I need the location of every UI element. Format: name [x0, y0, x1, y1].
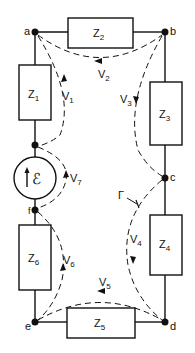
node-label-a: a: [24, 25, 31, 37]
svg-text:V4: V4: [130, 233, 142, 248]
node-b: [162, 29, 169, 36]
arrow-v7-icon: [63, 170, 69, 178]
arrow-v3-icon: [133, 96, 139, 104]
svg-text:V7: V7: [70, 172, 82, 187]
circuit-diagram: a b c d e f Z2 Z1 Z3 Z4 Z5 Z6 ℰ V2 V1 V3…: [0, 0, 195, 353]
gamma-pointer: [127, 198, 139, 208]
svg-text:V3: V3: [120, 93, 132, 108]
node-label-b: b: [170, 25, 176, 37]
svg-text:V6: V6: [63, 254, 75, 269]
node-label-f: f: [28, 206, 31, 216]
svg-text:V5: V5: [99, 276, 111, 291]
impedance-z1: [19, 65, 51, 120]
arrow-v4-icon: [130, 256, 136, 264]
node-f: [32, 207, 39, 214]
node-a: [32, 29, 39, 36]
arrow-v1-icon: [61, 74, 67, 82]
node-label-e: e: [25, 320, 31, 332]
svg-text:V2: V2: [98, 68, 110, 83]
arrow-v5-icon: [97, 288, 105, 294]
node-label-d: d: [170, 320, 176, 332]
node-e: [32, 319, 39, 326]
node-c: [162, 175, 169, 182]
voltage-labels: V2 V1 V3 V7 V4 V6 V5: [62, 68, 142, 291]
node-label-c: c: [170, 171, 176, 183]
node-g: [32, 142, 39, 149]
gamma-label: Γ: [118, 189, 124, 201]
node-d: [162, 319, 169, 326]
arrow-v2-icon: [94, 58, 102, 64]
emf-label: ℰ: [32, 170, 41, 187]
